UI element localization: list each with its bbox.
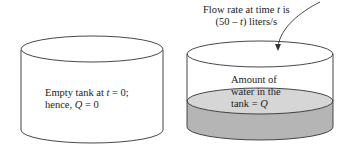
flow-rate-label: Flow rate at time t is (50 – t) liters/s [203, 4, 290, 28]
water-amount-label: Amount of water in the tank = Q [231, 74, 281, 110]
empty-tank-label: Empty tank at t = 0; hence, Q = 0 [45, 87, 129, 111]
diagram-canvas [0, 0, 348, 152]
